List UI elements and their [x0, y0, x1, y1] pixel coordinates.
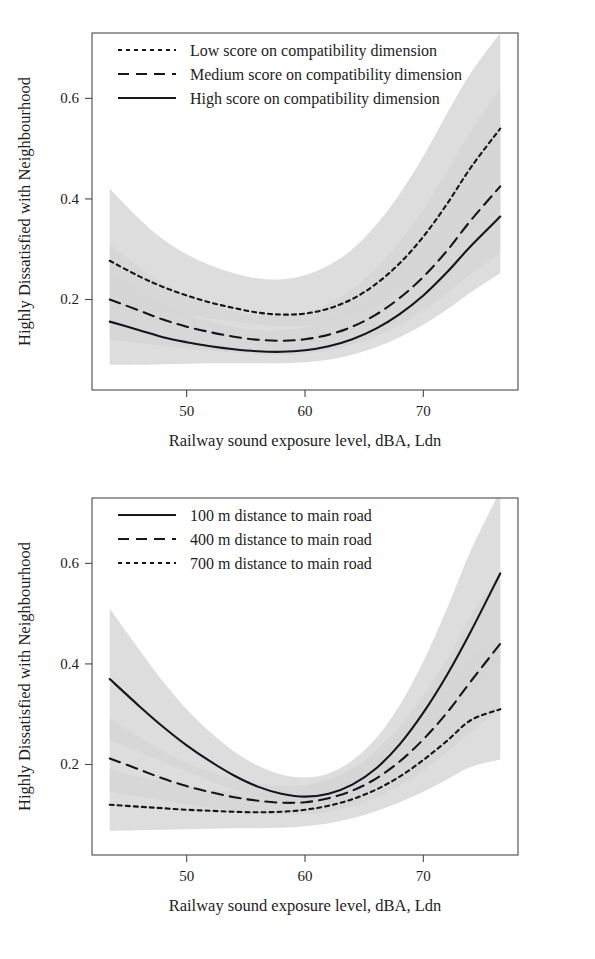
legend-item: 400 m distance to main road [118, 531, 372, 548]
y-tick-label: 0.2 [60, 291, 79, 307]
legend-label: Low score on compatibility dimension [190, 42, 437, 60]
y-axis: 0.20.40.6Highly Dissatisfied with Neighb… [15, 541, 92, 811]
legend-label: 400 m distance to main road [190, 531, 372, 548]
x-tick-label: 60 [298, 403, 313, 419]
legend-item: 700 m distance to main road [118, 555, 372, 572]
y-tick-label: 0.2 [60, 756, 79, 772]
x-tick-label: 70 [416, 868, 431, 884]
x-axis-title: Railway sound exposure level, dBA, Ldn [169, 431, 442, 450]
plot-area-2: 506070Railway sound exposure level, dBA,… [0, 465, 595, 935]
legend-label: 100 m distance to main road [190, 507, 372, 524]
x-axis-title: Railway sound exposure level, dBA, Ldn [169, 896, 442, 915]
y-tick-label: 0.6 [60, 555, 79, 571]
legend-label: Medium score on compatibility dimension [190, 66, 462, 84]
x-tick-label: 50 [179, 403, 194, 419]
y-tick-label: 0.4 [60, 191, 79, 207]
legend-item: Medium score on compatibility dimension [118, 66, 462, 84]
legend-label: 700 m distance to main road [190, 555, 372, 572]
x-tick-label: 50 [179, 868, 194, 884]
x-tick-label: 60 [298, 868, 313, 884]
figure-container: 506070Railway sound exposure level, dBA,… [0, 0, 595, 959]
legend-item: High score on compatibility dimension [118, 90, 440, 108]
legend-label: High score on compatibility dimension [190, 90, 440, 108]
x-tick-label: 70 [416, 403, 431, 419]
y-axis-title: Highly Dissatisfied with Neighbourhood [15, 541, 34, 811]
legend-item: Low score on compatibility dimension [118, 42, 437, 60]
legend: 100 m distance to main road400 m distanc… [118, 507, 372, 572]
plot-area-1: 506070Railway sound exposure level, dBA,… [0, 0, 595, 470]
y-tick-label: 0.4 [60, 656, 79, 672]
chart-panel-1: 506070Railway sound exposure level, dBA,… [0, 0, 595, 470]
legend-item: 100 m distance to main road [118, 507, 372, 524]
legend: Low score on compatibility dimensionMedi… [118, 42, 462, 108]
y-axis: 0.20.40.6Highly Dissatisfied with Neighb… [15, 76, 92, 346]
x-axis: 506070Railway sound exposure level, dBA,… [169, 855, 442, 915]
x-axis: 506070Railway sound exposure level, dBA,… [169, 390, 442, 450]
chart-panel-2: 506070Railway sound exposure level, dBA,… [0, 465, 595, 935]
y-axis-title: Highly Dissatisfied with Neighbourhood [15, 76, 34, 346]
y-tick-label: 0.6 [60, 90, 79, 106]
